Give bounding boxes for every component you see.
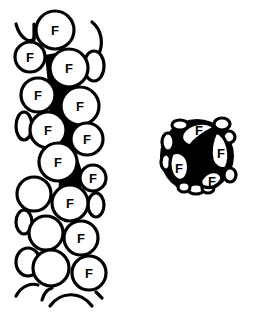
cell-label: F [217,146,225,161]
diagram-canvas: F F F F F F F F F F F F [0,0,264,320]
top-arc-left [16,24,34,41]
cell-label: F [65,61,73,76]
cell [17,177,51,211]
cell-label: F [89,171,97,186]
cell-label: F [77,231,85,246]
cell-label: F [54,155,62,170]
cell-label: F [66,196,74,211]
cell-label: F [51,23,59,38]
bottom-arc [96,292,102,298]
cell-label: F [44,123,52,138]
bottom-arc [42,288,52,300]
bottom-arc [50,295,92,306]
longitudinal-strand: F F F F F F F F F F F F [15,11,106,306]
cell-label: F [85,266,93,281]
cell-label: F [76,99,84,114]
cell [33,250,69,286]
cell-label: F [208,174,216,189]
cell [224,168,236,182]
cell-label: F [26,50,34,65]
cross-section: F F F F [160,118,236,194]
cell-label: F [175,161,183,176]
cell [162,133,174,151]
cell-label: F [83,132,91,147]
cell [88,193,104,217]
bottom-arc [16,284,38,296]
cell [29,216,63,250]
cell-label: F [34,88,42,103]
cell [178,182,190,192]
cell-label: F [195,123,203,138]
cell [214,118,230,130]
